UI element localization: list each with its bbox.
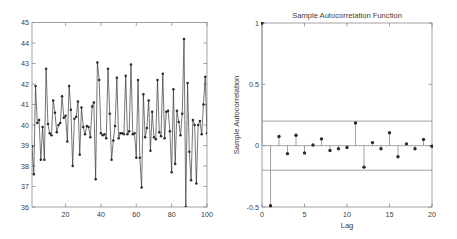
stem-marker <box>396 155 399 158</box>
data-point-marker <box>50 134 53 137</box>
data-point-marker <box>158 131 161 134</box>
data-point-marker <box>91 105 94 108</box>
data-point-marker <box>160 135 163 138</box>
x-tick-label: 15 <box>386 210 394 219</box>
y-tick-label: 40 <box>21 121 29 130</box>
y-tick-label: -0.5 <box>247 203 259 212</box>
data-point-marker <box>41 126 44 129</box>
y-tick-label: 43 <box>21 59 29 68</box>
acf-data <box>260 21 433 207</box>
x-tick-label: 60 <box>132 210 140 219</box>
data-point-marker <box>195 182 198 185</box>
data-point-marker <box>151 110 154 113</box>
data-point-marker <box>176 109 179 112</box>
plot-frame <box>32 23 207 208</box>
stem-marker <box>354 121 357 124</box>
data-point-marker <box>185 206 188 209</box>
timeseries-plot-svg: 3637383940414243444520406080100 <box>0 0 228 239</box>
data-point-marker <box>147 99 150 102</box>
data-point-marker <box>70 108 73 111</box>
x-tick-label: 80 <box>168 210 176 219</box>
x-axis-label: Lag <box>341 221 354 230</box>
stem-marker <box>328 149 331 152</box>
data-point-marker <box>128 130 131 133</box>
data-point-marker <box>52 99 55 102</box>
data-point-marker <box>66 140 69 143</box>
data-point-marker <box>77 100 80 103</box>
data-point-marker <box>71 165 74 168</box>
timeseries-line <box>32 39 207 207</box>
stem-marker <box>311 143 314 146</box>
data-point-marker <box>162 73 165 76</box>
data-point-marker <box>169 130 172 133</box>
data-point-marker <box>96 61 99 64</box>
data-point-marker <box>144 136 147 139</box>
y-tick-label: 37 <box>21 182 29 191</box>
stem-marker <box>430 145 433 148</box>
stem-marker <box>413 147 416 150</box>
data-point-marker <box>47 123 50 126</box>
stem-marker <box>294 134 297 137</box>
data-point-marker <box>156 79 159 82</box>
data-point-marker <box>197 124 200 127</box>
data-point-marker <box>177 121 180 124</box>
data-point-marker <box>107 67 110 70</box>
data-point-marker <box>89 136 92 139</box>
data-point-marker <box>123 133 126 136</box>
y-tick-label: 45 <box>21 18 29 27</box>
data-point-marker <box>116 77 119 80</box>
data-point-marker <box>153 136 156 139</box>
data-point-marker <box>109 112 112 115</box>
data-point-marker <box>34 85 37 88</box>
data-point-marker <box>64 115 67 118</box>
data-point-marker <box>73 118 76 121</box>
y-tick-label: 0 <box>255 141 259 150</box>
y-tick-label: 36 <box>21 203 29 212</box>
data-point-marker <box>126 133 129 136</box>
data-point-marker <box>45 67 48 70</box>
data-point-marker <box>179 134 182 137</box>
x-tick-label: 40 <box>97 210 105 219</box>
data-point-marker <box>181 112 184 115</box>
stem-marker <box>277 135 280 138</box>
data-point-marker <box>87 126 90 129</box>
data-point-marker <box>103 133 106 136</box>
data-point-marker <box>82 126 85 129</box>
data-point-marker <box>142 93 145 96</box>
x-tick-label: 100 <box>201 210 213 219</box>
stem-marker <box>345 146 348 149</box>
data-point-marker <box>75 116 78 119</box>
y-axis-label: Sample Autocorrelation <box>232 76 241 155</box>
data-point-marker <box>114 125 117 128</box>
stem-marker <box>362 165 365 168</box>
y-tick-label: 41 <box>21 100 29 109</box>
x-tick-label: 20 <box>62 210 70 219</box>
stem-marker <box>260 21 263 24</box>
data-point-marker <box>124 75 127 78</box>
y-tick-label: 42 <box>21 80 29 89</box>
autocorrelation-plot-panel: -0.500.5105101520Sample Autocorrelation … <box>228 0 457 239</box>
data-point-marker <box>137 79 140 82</box>
data-point-marker <box>33 173 36 176</box>
x-tick-label: 20 <box>428 210 436 219</box>
data-point-marker <box>140 186 143 189</box>
data-point-marker <box>135 157 138 160</box>
data-point-marker <box>204 76 207 79</box>
data-point-marker <box>54 111 57 114</box>
data-point-marker <box>186 82 189 85</box>
data-point-marker <box>57 124 60 127</box>
x-tick-label: 0 <box>260 210 264 219</box>
data-point-marker <box>174 163 177 166</box>
data-point-marker <box>110 159 113 162</box>
data-point-marker <box>206 132 209 135</box>
data-point-marker <box>139 157 142 160</box>
data-point-marker <box>98 79 101 82</box>
data-point-marker <box>154 138 157 141</box>
y-tick-label: 44 <box>21 39 29 48</box>
matlab-figure-window: 3637383940414243444520406080100 -0.500.5… <box>0 0 457 239</box>
autocorrelation-plot-svg: -0.500.5105101520Sample Autocorrelation … <box>228 0 457 239</box>
data-point-marker <box>199 120 202 123</box>
data-point-marker <box>36 122 39 125</box>
data-point-marker <box>94 178 97 181</box>
data-point-marker <box>149 149 152 152</box>
